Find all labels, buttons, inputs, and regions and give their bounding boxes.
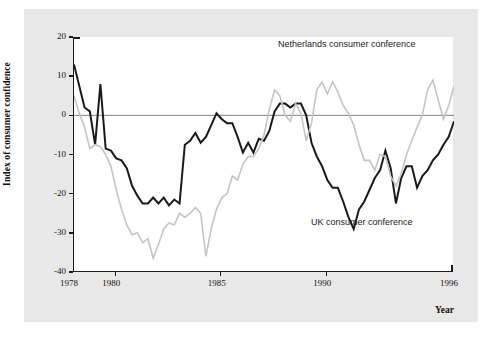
x-tick-mark — [115, 272, 116, 276]
x-tick-label: 1978 — [60, 278, 78, 288]
y-tick-label: 20 — [57, 31, 66, 41]
x-tick-label: 1996 — [440, 278, 458, 288]
y-tick-label: -20 — [54, 188, 66, 198]
x-axis-title: Year — [435, 305, 454, 315]
plot-area — [73, 37, 453, 272]
x-tick-label: 1980 — [102, 278, 120, 288]
y-tick-mark — [69, 115, 73, 116]
y-tick-mark — [69, 271, 73, 272]
y-axis-end-cap — [73, 37, 80, 39]
x-tick-mark — [220, 272, 221, 276]
series-line-uk — [74, 64, 454, 229]
x-axis-end-cap — [451, 265, 453, 272]
y-tick-label: -30 — [54, 227, 66, 237]
series-annotation-uk: UK consumer conference — [311, 217, 413, 227]
y-tick-label: 10 — [57, 70, 66, 80]
x-tick-label: 1990 — [313, 278, 331, 288]
y-tick-label: 0 — [62, 109, 67, 119]
line-chart — [74, 37, 454, 272]
y-tick-mark — [69, 75, 73, 76]
y-tick-mark — [69, 193, 73, 194]
y-tick-label: -40 — [54, 266, 66, 276]
y-tick-label: -10 — [54, 149, 66, 159]
x-tick-label: 1985 — [208, 278, 226, 288]
y-tick-mark — [69, 154, 73, 155]
y-tick-mark — [69, 232, 73, 233]
series-annotation-netherlands: Netherlands consumer conference — [278, 39, 416, 49]
y-axis-title: Index of consumer confidence — [2, 0, 12, 5]
series-line-netherlands — [74, 80, 454, 258]
x-tick-mark — [326, 272, 327, 276]
figure-card: Index of consumer confidence -40-30-20-1… — [24, 9, 478, 322]
